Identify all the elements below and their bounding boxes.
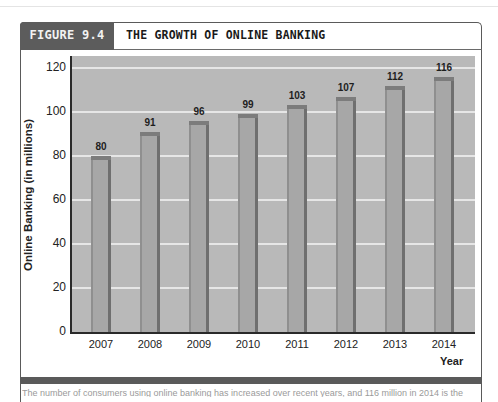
bar-cap	[91, 156, 111, 160]
bar-2014	[434, 77, 454, 332]
bar-cap	[238, 114, 258, 118]
x-tick-label: 2010	[228, 338, 268, 350]
page-top-rule	[0, 6, 498, 7]
bar-value-label: 80	[81, 141, 121, 152]
x-tick-label: 2012	[326, 338, 366, 350]
y-tick-label: 80	[36, 148, 66, 162]
figure-title: THE GROWTH OF ONLINE BANKING	[126, 22, 325, 50]
figure-header: FIGURE 9.4 THE GROWTH OF ONLINE BANKING	[20, 22, 482, 50]
bar-cap	[287, 105, 307, 109]
bar-2009	[189, 121, 209, 332]
bar-2008	[140, 132, 160, 332]
gridline	[72, 199, 475, 201]
x-tick-label: 2011	[277, 338, 317, 350]
bar-2012	[336, 97, 356, 332]
gridline	[72, 111, 475, 113]
x-tick-label: 2007	[81, 338, 121, 350]
figure-number: FIGURE 9.4	[20, 22, 114, 50]
bar-value-label: 99	[228, 99, 268, 110]
x-tick-label: 2008	[130, 338, 170, 350]
bar-2007	[91, 156, 111, 332]
y-tick-label: 20	[36, 280, 66, 294]
figure-footer-bar	[20, 377, 482, 384]
bar-cap	[434, 77, 454, 81]
bar-cap	[189, 121, 209, 125]
x-tick-label: 2013	[375, 338, 415, 350]
y-tick-label: 100	[36, 104, 66, 118]
plot-area: 80919699103107112116	[70, 56, 475, 334]
bar-value-label: 107	[326, 82, 366, 93]
bar-value-label: 112	[375, 71, 415, 82]
y-tick-label: 0	[36, 324, 66, 338]
bar-cap	[140, 132, 160, 136]
bar-value-label: 91	[130, 117, 170, 128]
x-axis-label: Year	[440, 355, 463, 367]
bar-cap	[336, 97, 356, 101]
x-tick-label: 2014	[424, 338, 464, 350]
bar-value-label: 103	[277, 90, 317, 101]
y-tick-label: 40	[36, 236, 66, 250]
y-axis-label: Online Banking (in millions)	[22, 119, 34, 271]
y-tick-label: 60	[36, 192, 66, 206]
bar-2011	[287, 105, 307, 332]
gridline	[72, 67, 475, 69]
gridline	[72, 155, 475, 157]
bar-value-label: 96	[179, 106, 219, 117]
figure-caption: The number of consumers using online ban…	[22, 388, 492, 397]
gridline	[72, 287, 475, 289]
bar-2010	[238, 114, 258, 332]
bar-value-label: 116	[424, 62, 464, 73]
gridline	[72, 243, 475, 245]
bar-2013	[385, 86, 405, 332]
x-tick-label: 2009	[179, 338, 219, 350]
y-tick-label: 120	[36, 60, 66, 74]
bar-cap	[385, 86, 405, 90]
